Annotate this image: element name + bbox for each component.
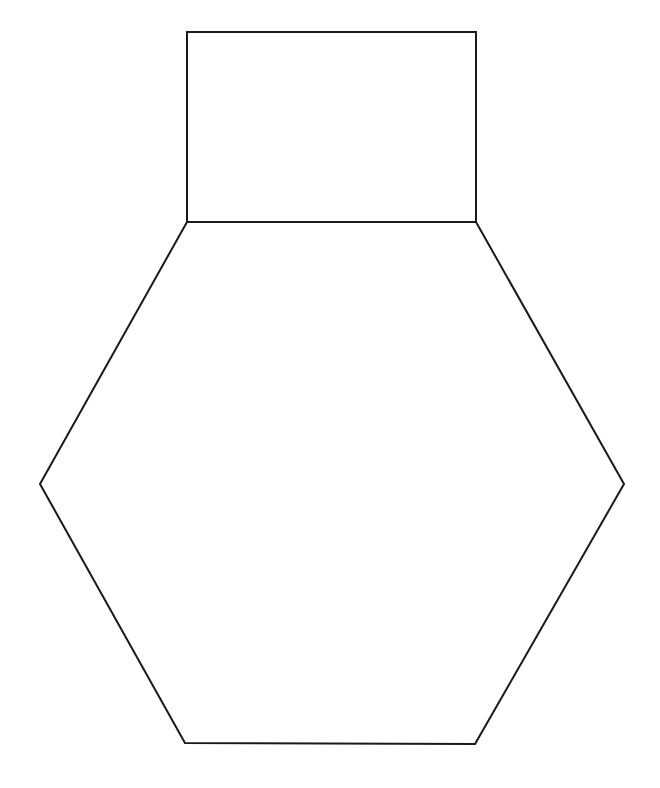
rectangle-shape [187,32,476,222]
hexagon-shape [40,222,624,744]
diagram-canvas [0,0,660,788]
